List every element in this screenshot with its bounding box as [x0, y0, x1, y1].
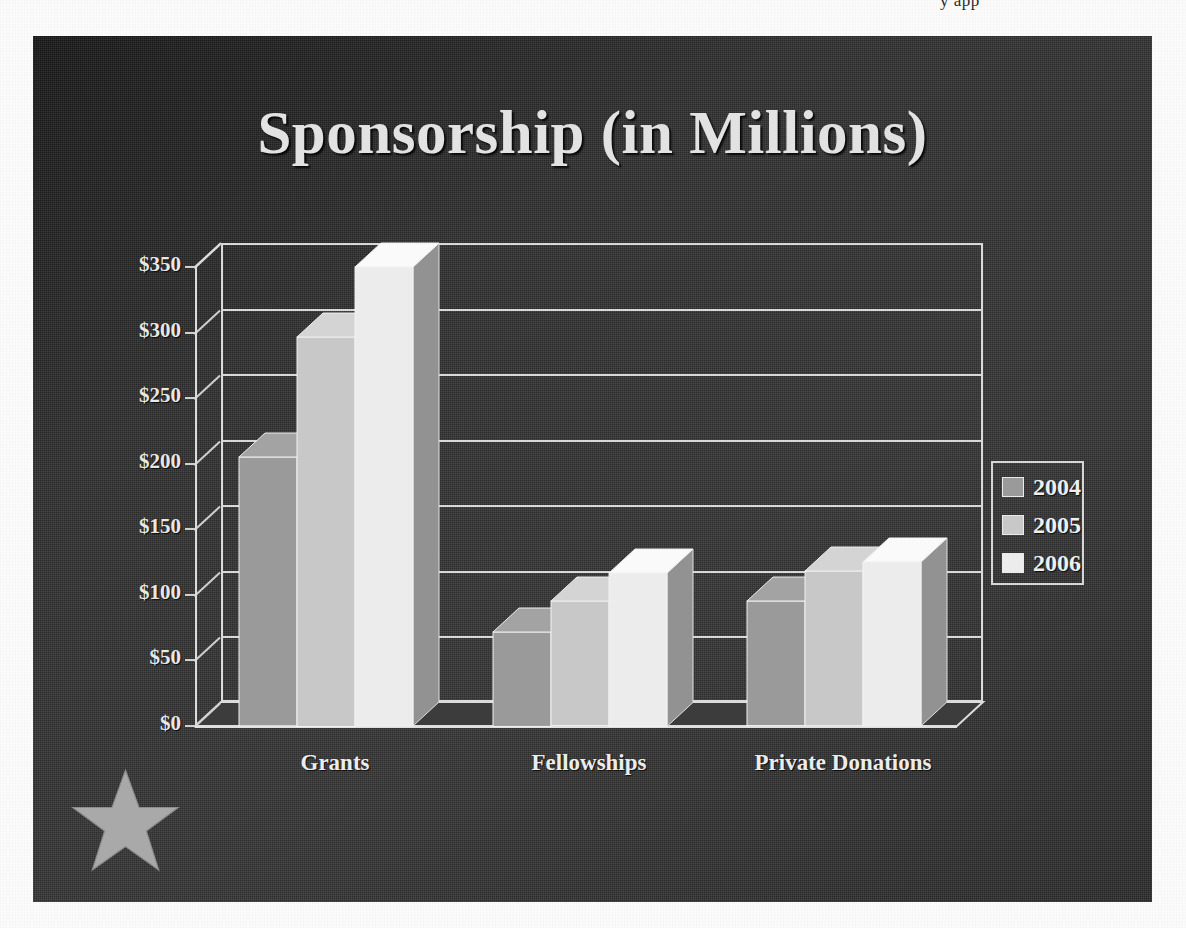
y-axis-tick: [185, 528, 195, 530]
legend-swatch-2005: [1002, 515, 1024, 535]
y-axis-tick: [185, 725, 195, 727]
y-axis-label: $0: [65, 711, 181, 736]
chart-gridline-depth: [194, 309, 221, 334]
y-axis-label: $200: [65, 449, 181, 474]
chart-gridline-depth: [194, 506, 221, 531]
cropped-header-text: y app: [940, 0, 1180, 13]
y-axis-label: $250: [65, 383, 181, 408]
legend-item-2006[interactable]: 2006: [1002, 551, 1081, 575]
sponsorship-bar-chart: $0$50$100$150$200$250$300$350GrantsFello…: [33, 36, 1152, 902]
x-axis-category-label: Private Donations: [673, 750, 1013, 776]
y-axis-line: [195, 267, 197, 728]
star-icon: [68, 768, 183, 878]
chart-gridline-depth: [194, 375, 221, 400]
legend-item-2005[interactable]: 2005: [1002, 513, 1081, 537]
bar-2006-private-donations: [863, 538, 947, 726]
legend-item-2004[interactable]: 2004: [1002, 475, 1081, 499]
bar-2006-fellowships: [609, 549, 693, 726]
y-axis-tick: [185, 594, 195, 596]
y-axis-label: $300: [65, 318, 181, 343]
bar-3d-shape: [609, 549, 693, 726]
chart-gridline: [221, 309, 983, 311]
bar-3d-shape: [863, 538, 947, 726]
chart-gridline-depth: [194, 440, 221, 465]
bar-2006-grants: [355, 243, 439, 726]
y-axis-tick: [185, 463, 195, 465]
chart-left-wall-edge: [195, 243, 225, 271]
legend-swatch-2006: [1002, 553, 1024, 573]
legend-label: 2004: [1033, 475, 1081, 499]
legend-label: 2005: [1033, 513, 1081, 537]
y-axis-tick: [185, 659, 195, 661]
y-axis-label: $50: [65, 645, 181, 670]
y-axis-label: $100: [65, 580, 181, 605]
chart-gridline: [221, 243, 983, 245]
legend-swatch-2004: [1002, 477, 1024, 497]
presentation-slide: Sponsorship (in Millions) $0$50$100$150$…: [33, 36, 1152, 902]
y-axis-tick: [185, 266, 195, 268]
y-axis-label: $150: [65, 514, 181, 539]
bar-3d-shape: [355, 243, 439, 726]
y-axis-label: $350: [65, 252, 181, 277]
y-axis-tick: [185, 397, 195, 399]
chart-legend: 200420052006: [991, 461, 1084, 585]
chart-gridline-depth: [194, 637, 221, 662]
chart-gridline-depth: [194, 571, 221, 596]
legend-label: 2006: [1033, 551, 1081, 575]
y-axis-tick: [185, 332, 195, 334]
